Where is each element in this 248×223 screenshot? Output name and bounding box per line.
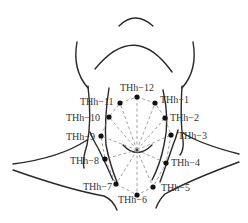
point-thh-12 [134, 94, 139, 99]
label-thh-4: THh−4 [171, 157, 200, 168]
label-thh-2: THh−2 [170, 112, 199, 123]
point-thh-8 [102, 156, 107, 161]
point-thh-11 [117, 100, 122, 105]
point-thh-4 [163, 160, 168, 165]
point-thh-5 [150, 184, 155, 189]
label-thh-5: THh−5 [161, 182, 190, 193]
left-face-contour [76, 42, 88, 88]
label-thh-6: THh−6 [118, 194, 147, 205]
label-thh-12: THh−12 [120, 82, 154, 93]
label-thh-10: THh−10 [66, 112, 100, 123]
point-thh-10 [106, 114, 111, 119]
radial-line-thh-11 [120, 103, 137, 150]
point-thh-2 [162, 115, 167, 120]
label-thh-3: THh−3 [178, 130, 207, 141]
point-thh-1 [152, 100, 157, 105]
label-thh-9: THh−9 [66, 131, 95, 142]
chin-jaw-curve [95, 45, 172, 72]
right-face-contour [182, 42, 194, 88]
label-thh-1: THh−1 [160, 94, 189, 105]
point-thh-3 [168, 132, 173, 137]
nose-curve [119, 18, 153, 26]
center-point [136, 149, 138, 151]
point-thh-7 [113, 181, 118, 186]
diagram-canvas: THh−12THh−1THh−2THh−3THh−4THh−5THh−6THh−… [0, 0, 248, 223]
label-thh-11: THh−11 [80, 96, 114, 107]
point-thh-9 [98, 133, 103, 138]
radial-line-thh-5 [137, 150, 153, 187]
right-neck-inner [160, 130, 178, 182]
anatomy-outline [13, 18, 239, 210]
neck-point-diagram: THh−12THh−1THh−2THh−3THh−4THh−5THh−6THh−… [0, 0, 248, 223]
label-thh-8: THh−8 [70, 155, 99, 166]
label-thh-7: THh−7 [83, 181, 112, 192]
